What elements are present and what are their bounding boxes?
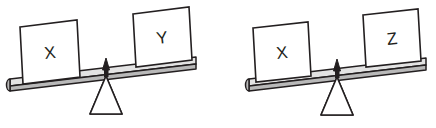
scale-1-box-y: Y	[133, 7, 192, 67]
scale-1-box-x: X	[20, 20, 80, 84]
scale-2-box-z: Z	[363, 9, 421, 67]
scale-2-box-x: X	[253, 22, 311, 82]
scale-2-box-x-label: X	[275, 43, 288, 63]
scale-2-beam-left-cap	[246, 79, 249, 91]
scale-2-box-z-label: Z	[386, 29, 398, 49]
balance-scales-figure: X Y	[0, 0, 436, 128]
scale-1: X Y	[7, 7, 197, 114]
scale-2: X Z	[246, 9, 426, 115]
diagram-canvas: X Y	[0, 0, 436, 128]
scale-1-box-y-label: Y	[155, 28, 168, 48]
scale-1-box-x-label: X	[43, 43, 56, 63]
scale-1-beam-left-cap	[7, 79, 11, 91]
